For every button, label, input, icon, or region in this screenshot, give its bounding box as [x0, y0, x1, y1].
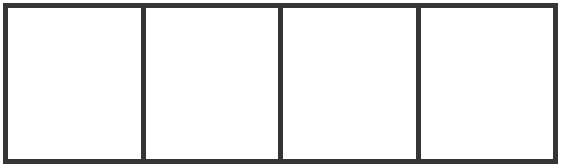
panel-3	[283, 8, 416, 159]
panel-1	[8, 8, 141, 159]
panel-4	[421, 8, 554, 159]
panel-2	[146, 8, 279, 159]
four-panel-strip	[3, 3, 558, 164]
